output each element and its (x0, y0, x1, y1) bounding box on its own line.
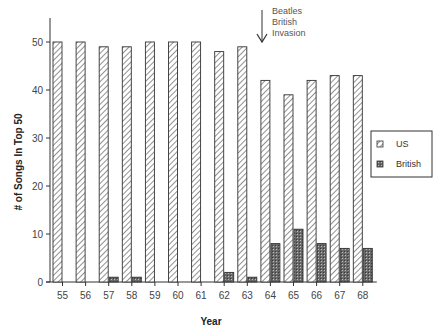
bar-british-57 (109, 277, 118, 282)
x-axis-title: Year (200, 316, 221, 327)
x-tick-label: 65 (288, 290, 300, 301)
legend-label-us: US (396, 139, 409, 149)
x-tick-label: 59 (149, 290, 161, 301)
x-tick-label: 58 (126, 290, 138, 301)
bar-us-55 (53, 42, 62, 282)
legend: US British (371, 131, 432, 177)
bar-us-63 (238, 47, 247, 282)
bar-us-67 (330, 76, 339, 282)
x-tick-label: 57 (103, 290, 115, 301)
legend-box (371, 131, 432, 177)
y-axis-title: # of Songs In Top 50 (13, 113, 24, 210)
x-tick-label: 55 (57, 290, 69, 301)
annotation-line-1: Beatles (272, 6, 303, 16)
annotation-beatles: Beatles British Invasion (257, 6, 306, 42)
x-tick-label: 62 (219, 290, 231, 301)
bar-british-62 (225, 272, 234, 282)
legend-swatch-british (377, 161, 383, 167)
x-tick-label: 64 (265, 290, 277, 301)
bar-us-66 (307, 80, 316, 282)
x-tick-label: 56 (80, 290, 92, 301)
y-tick-label: 40 (32, 85, 44, 96)
y-tick-label: 10 (32, 229, 44, 240)
bar-us-56 (76, 42, 85, 282)
bar-chart: 01020304050 5556575859606162636465666768… (0, 0, 438, 334)
x-axis: 5556575859606162636465666768 (46, 282, 377, 301)
bar-british-63 (248, 277, 257, 282)
y-tick-label: 20 (32, 181, 44, 192)
bar-british-65 (294, 229, 303, 282)
bar-british-58 (132, 277, 141, 282)
y-axis: 01020304050 (32, 18, 50, 288)
bar-us-65 (284, 95, 293, 282)
bar-british-67 (340, 248, 349, 282)
bar-us-64 (261, 80, 270, 282)
bar-us-60 (169, 42, 178, 282)
bar-us-57 (99, 47, 108, 282)
x-tick-label: 67 (334, 290, 346, 301)
x-tick-label: 61 (196, 290, 208, 301)
bar-us-68 (353, 76, 362, 282)
x-tick-label: 68 (357, 290, 369, 301)
bar-british-68 (363, 248, 372, 282)
bar-british-66 (317, 244, 326, 282)
annotation-line-2: British (272, 17, 297, 27)
bar-british-64 (271, 244, 280, 282)
y-tick-label: 50 (32, 37, 44, 48)
bar-us-61 (192, 42, 201, 282)
y-tick-label: 0 (37, 277, 43, 288)
y-tick-label: 30 (32, 133, 44, 144)
bar-us-58 (122, 47, 131, 282)
x-tick-label: 66 (311, 290, 323, 301)
legend-label-british: British (396, 159, 421, 169)
x-tick-label: 60 (172, 290, 184, 301)
annotation-line-3: Invasion (272, 28, 306, 38)
x-tick-label: 63 (242, 290, 254, 301)
bar-us-59 (145, 42, 154, 282)
bars (53, 42, 372, 282)
legend-swatch-us (377, 141, 383, 147)
bar-us-62 (215, 52, 224, 282)
